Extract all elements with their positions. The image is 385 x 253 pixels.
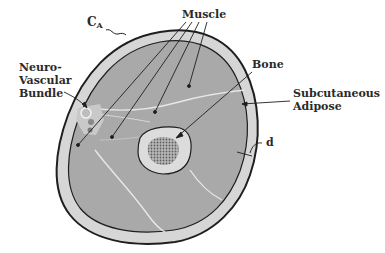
diagram-stage: CA Muscle Bone Neuro- Vascular Bundle Su…: [0, 0, 385, 253]
label-muscle: Muscle: [182, 8, 226, 21]
label-ca-main: C: [87, 15, 97, 29]
label-bone: Bone: [252, 58, 284, 71]
label-ca: CA: [87, 16, 103, 32]
label-neurovascular-bundle: Neuro- Vascular Bundle: [19, 61, 72, 100]
label-subcutaneous-adipose: Subcutaneous Adipose: [293, 87, 380, 113]
bone: [138, 127, 191, 174]
label-d: d: [266, 136, 274, 149]
cross-section-figure: [0, 0, 385, 253]
label-ca-sub: A: [97, 20, 103, 30]
ca-callout-arrow: [106, 30, 126, 35]
